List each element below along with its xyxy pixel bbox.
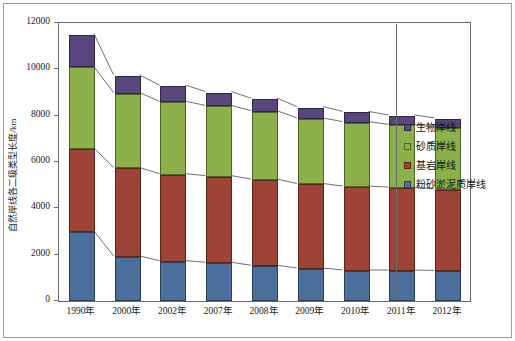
legend-item[interactable]: 生物岸线 [404, 118, 512, 137]
bar-segment[interactable] [206, 263, 232, 301]
y-axis-title-text: 自然岸线各二级类型长度/km [6, 95, 19, 255]
bar-segment[interactable] [69, 67, 95, 149]
bar-stack[interactable] [252, 23, 278, 301]
bar-segment[interactable] [344, 123, 370, 187]
bar-segment[interactable] [206, 177, 232, 264]
bar-segment[interactable] [160, 86, 186, 102]
bar-segment[interactable] [344, 187, 370, 271]
y-axis-tick-label: 4000 [4, 202, 50, 211]
legend-item[interactable]: 粉砂淤泥质岸线 [404, 175, 512, 194]
bar-segment[interactable] [435, 271, 461, 301]
bar-segment[interactable] [252, 99, 278, 112]
bar-segment[interactable] [69, 232, 95, 301]
bar-segment[interactable] [389, 271, 415, 301]
bar-segment[interactable] [160, 102, 186, 175]
legend-item[interactable]: 砂质岸线 [404, 137, 512, 156]
bar-stack[interactable] [69, 23, 95, 301]
bar-segment[interactable] [344, 112, 370, 122]
legend-item[interactable]: 基岩岸线 [404, 156, 512, 175]
bar-segment[interactable] [389, 188, 415, 271]
legend-item-label: 粉砂淤泥质岸线 [416, 179, 486, 190]
y-axis-tick-label: 2000 [4, 249, 50, 258]
chart-legend: 生物岸线砂质岸线基岩岸线粉砂淤泥质岸线 [404, 118, 512, 194]
legend-swatch-icon [404, 124, 411, 131]
bar-segment[interactable] [206, 106, 232, 176]
bar-segment[interactable] [115, 257, 141, 301]
bar-segment[interactable] [298, 184, 324, 269]
legend-swatch-icon [404, 162, 411, 169]
y-axis-tick-label: 10000 [4, 63, 50, 72]
y-axis-tick-label: 8000 [4, 110, 50, 119]
bar-segment[interactable] [160, 175, 186, 262]
legend-item-label: 基岩岸线 [416, 160, 456, 171]
bar-segment[interactable] [252, 266, 278, 301]
bar-stack[interactable] [160, 23, 186, 301]
bar-segment[interactable] [298, 269, 324, 301]
bar-stack[interactable] [344, 23, 370, 301]
y-axis-tick-label: 12000 [4, 17, 50, 26]
legend-item-label: 砂质岸线 [416, 141, 456, 152]
bar-segment[interactable] [344, 271, 370, 301]
bar-segment[interactable] [435, 190, 461, 272]
bar-segment[interactable] [298, 108, 324, 119]
bar-stack[interactable] [115, 23, 141, 301]
bar-segment[interactable] [69, 35, 95, 68]
bar-segment[interactable] [206, 93, 232, 107]
chart-figure: 自然岸线各二级类型长度/km 0200040006000800010000120… [0, 0, 515, 341]
x-axis-tick-label: 2012年 [417, 303, 477, 317]
bar-segment[interactable] [252, 180, 278, 266]
y-axis-tick-label: 0 [4, 295, 50, 304]
legend-swatch-icon [404, 181, 411, 188]
legend-swatch-icon [404, 143, 411, 150]
bar-segment[interactable] [115, 168, 141, 256]
bar-segment[interactable] [298, 119, 324, 185]
y-axis-tick-label: 6000 [4, 156, 50, 165]
bar-stack[interactable] [298, 23, 324, 301]
legend-item-label: 生物岸线 [416, 122, 456, 133]
bar-segment[interactable] [115, 94, 141, 169]
bar-segment[interactable] [69, 149, 95, 232]
bar-segment[interactable] [252, 112, 278, 180]
legend-divider [396, 24, 397, 300]
bar-segment[interactable] [115, 76, 141, 94]
bar-stack[interactable] [206, 23, 232, 301]
bar-segment[interactable] [160, 262, 186, 301]
